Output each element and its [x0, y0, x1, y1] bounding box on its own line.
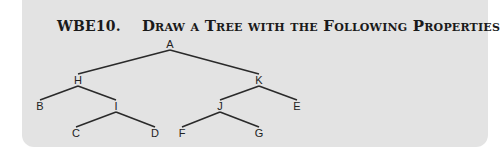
edge-H-I [78, 86, 116, 100]
node-H: H [74, 74, 82, 86]
node-C: C [72, 127, 80, 139]
node-B: B [36, 100, 43, 112]
edge-I-D [116, 112, 155, 127]
node-I: I [114, 100, 117, 112]
node-J: J [217, 100, 223, 112]
tree-nodes: AHKBIJECDFG [36, 38, 300, 139]
node-G: G [255, 127, 264, 139]
edge-J-F [182, 112, 220, 127]
edge-A-K [170, 50, 259, 74]
tree-edges [40, 50, 297, 127]
node-A: A [166, 38, 174, 50]
edge-K-J [220, 86, 259, 100]
edge-J-G [220, 112, 259, 127]
node-F: F [179, 127, 186, 139]
node-K: K [255, 74, 263, 86]
edge-H-B [40, 86, 78, 100]
edge-A-H [78, 50, 170, 74]
node-D: D [151, 127, 159, 139]
edge-K-E [259, 86, 297, 100]
edge-I-C [76, 112, 116, 127]
tree-diagram: AHKBIJECDFG [0, 0, 502, 160]
node-E: E [293, 100, 300, 112]
